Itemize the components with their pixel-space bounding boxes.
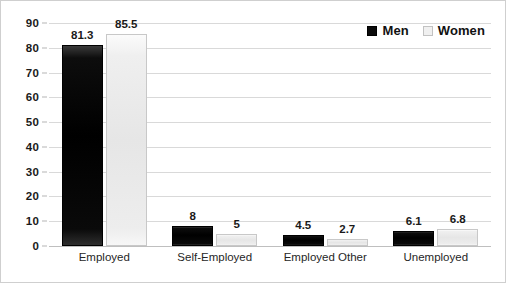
bar-women-employed[interactable] (106, 34, 147, 246)
legend-entry-women[interactable]: Women (423, 23, 485, 38)
bar-group: 4.52.7 (283, 23, 368, 246)
y-axis-tick-label: 60 (26, 91, 39, 103)
y-axis-tick-mark (42, 97, 47, 98)
y-axis-tick-label: 70 (26, 67, 39, 79)
y-axis-tick-label: 0 (32, 240, 39, 252)
bar-value-label: 81.3 (71, 29, 93, 41)
bar-value-label: 8 (190, 210, 196, 222)
bar-slot: 6.8 (437, 23, 478, 246)
x-axis-category-label: Self-Employed (177, 251, 252, 263)
y-axis-tick-mark (42, 196, 47, 197)
bar-men-employed-other[interactable] (283, 235, 324, 246)
legend-label-women: Women (438, 23, 485, 38)
y-axis-tick-mark (42, 146, 47, 147)
x-axis-category-label: Employed Other (284, 251, 367, 263)
y-axis: 0102030405060708090 (1, 1, 49, 283)
y-axis-tick-mark (42, 221, 47, 222)
bar-group: 6.16.8 (393, 23, 478, 246)
bar-slot: 6.1 (393, 23, 434, 246)
bar-men-employed[interactable] (62, 45, 103, 246)
legend-entry-men[interactable]: Men (367, 23, 408, 38)
bar-slot: 85.5 (106, 23, 147, 246)
bar-value-label: 85.5 (115, 18, 137, 30)
bar-women-employed-other[interactable] (327, 239, 368, 246)
bar-men-unemployed[interactable] (393, 231, 434, 246)
y-axis-tick-mark (42, 23, 47, 24)
plot-area: 81.385.5854.52.76.16.8 (49, 23, 491, 246)
y-axis-tick-mark (42, 72, 47, 73)
y-axis-tick-label: 40 (26, 141, 39, 153)
bar-value-label: 5 (234, 218, 240, 230)
y-axis-tick-label: 80 (26, 42, 39, 54)
y-axis-tick-label: 90 (26, 17, 39, 29)
bar-slot: 81.3 (62, 23, 103, 246)
bar-slot: 4.5 (283, 23, 324, 246)
bar-women-unemployed[interactable] (437, 229, 478, 246)
bar-slot: 2.7 (327, 23, 368, 246)
x-axis-category-label: Employed (79, 251, 130, 263)
bar-value-label: 2.7 (339, 223, 355, 235)
light-square-icon (423, 26, 433, 36)
black-square-icon (367, 26, 377, 36)
x-axis: EmployedSelf-EmployedEmployed OtherUnemp… (49, 251, 491, 277)
y-axis-tick-mark (42, 246, 47, 247)
y-axis-tick-mark (42, 47, 47, 48)
legend: Men Women (367, 23, 485, 38)
bar-men-self-employed[interactable] (172, 226, 213, 246)
y-axis-tick-label: 50 (26, 116, 39, 128)
bar-slot: 5 (216, 23, 257, 246)
bar-value-label: 6.1 (406, 215, 422, 227)
legend-label-men: Men (382, 23, 408, 38)
bar-group: 85 (172, 23, 257, 246)
x-axis-category-label: Unemployed (403, 251, 468, 263)
bar-value-label: 4.5 (295, 219, 311, 231)
y-axis-tick-label: 10 (26, 215, 39, 227)
gridline (49, 246, 491, 247)
y-axis-tick-label: 30 (26, 166, 39, 178)
bar-chart-figure: 0102030405060708090 81.385.5854.52.76.16… (0, 0, 506, 283)
y-axis-tick-label: 20 (26, 190, 39, 202)
bar-group: 81.385.5 (62, 23, 147, 246)
bar-women-self-employed[interactable] (216, 234, 257, 246)
bar-value-label: 6.8 (450, 213, 466, 225)
y-axis-tick-mark (42, 171, 47, 172)
y-axis-tick-mark (42, 122, 47, 123)
bar-slot: 8 (172, 23, 213, 246)
